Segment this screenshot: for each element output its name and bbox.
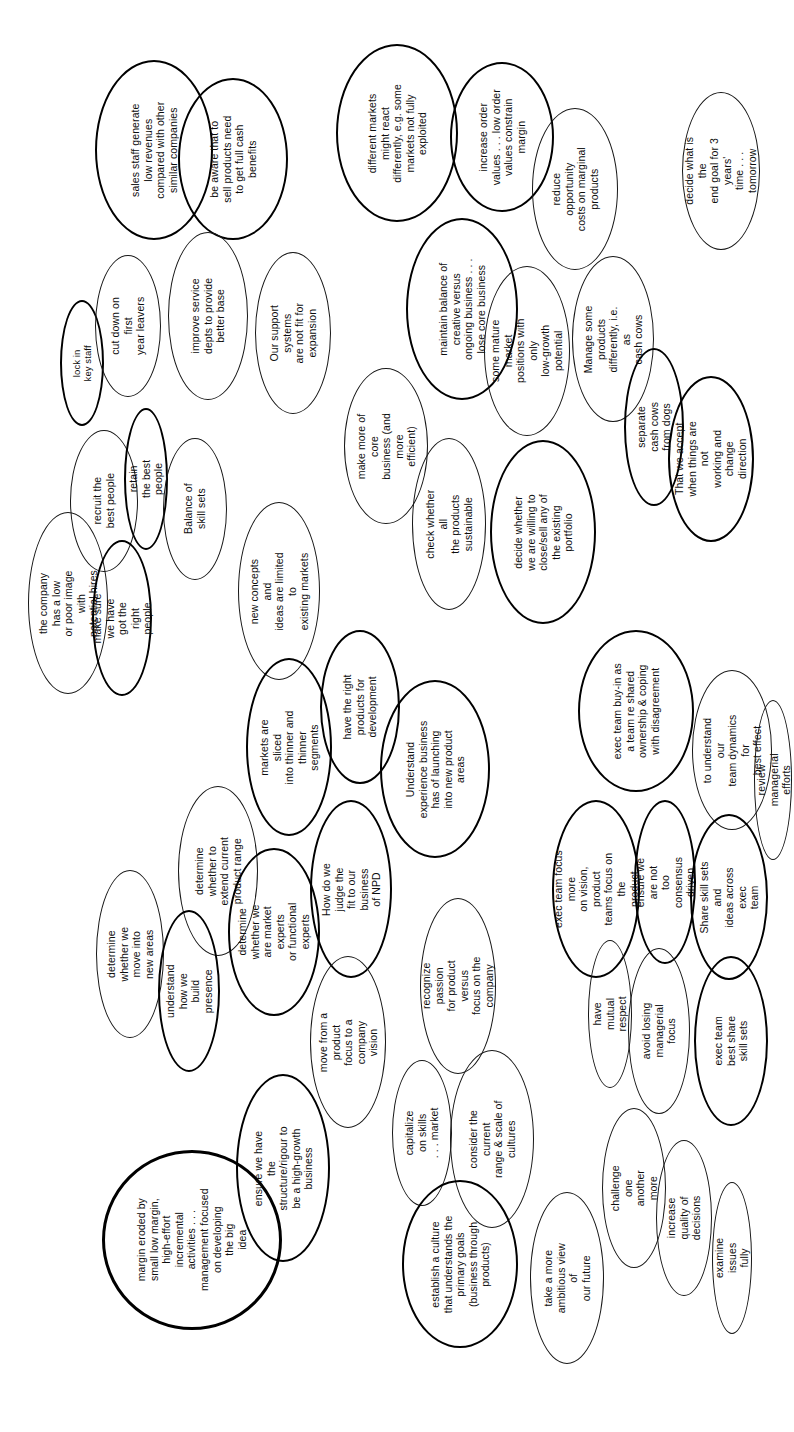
idea-oval-label: decide whether we are willing to close/s… xyxy=(512,481,575,583)
idea-oval: markets are sliced into thinner and thin… xyxy=(246,658,332,836)
idea-oval: some mature market positions with only l… xyxy=(484,266,570,436)
idea-oval-label: cut down on first year leavers xyxy=(109,294,147,358)
idea-oval-label: capitalize on skills . . . market xyxy=(403,1104,441,1162)
idea-oval: cut down on first year leavers xyxy=(95,255,161,397)
idea-oval: make sure we have got the right people xyxy=(92,540,152,696)
idea-oval-label: understand how we build presence xyxy=(164,962,214,1020)
idea-oval: ensure we are not too consensus driven xyxy=(634,800,696,964)
idea-oval: That we accept when things are not worki… xyxy=(668,376,754,542)
idea-oval-label: ensure we have the structure/rigour to b… xyxy=(252,1123,315,1213)
idea-oval-label: maintain balance of creative versus ongo… xyxy=(437,255,487,363)
idea-oval-label: recognize passion for product versus foc… xyxy=(420,949,496,1023)
idea-oval-label: markets are sliced into thinner and thin… xyxy=(258,706,321,788)
idea-oval-label: some mature market positions with only l… xyxy=(489,309,565,393)
idea-oval-label: avoid losing managerial focus xyxy=(640,1001,678,1061)
idea-oval: retain the best people xyxy=(124,408,168,550)
idea-oval: exec team focus more on vision, product … xyxy=(552,800,640,978)
diagram-canvas: sales staff generate low revenues compar… xyxy=(0,0,794,1432)
idea-oval-label: be aware that to sell products need to g… xyxy=(208,106,258,212)
idea-oval-label: improve service depts to provide better … xyxy=(189,277,227,355)
idea-oval: Understand experience business has of la… xyxy=(380,680,490,858)
idea-oval: exec team buy-in as a team re shared own… xyxy=(578,630,694,792)
idea-oval: establish a culture that understands the… xyxy=(402,1180,518,1348)
idea-oval: reduce opportunity costs on marginal pro… xyxy=(532,108,618,270)
idea-oval-label: margin eroded by small low margin, high-… xyxy=(135,1158,248,1322)
idea-oval-label: decide what is the end goal for 3 years'… xyxy=(683,133,759,209)
idea-oval: decide whether we are willing to close/s… xyxy=(490,440,596,624)
idea-oval-label: exec team focus more on vision, product … xyxy=(552,847,640,931)
idea-oval-label: have mutual respect xyxy=(591,993,629,1035)
idea-oval: Our support systems are not fit for expa… xyxy=(255,252,331,414)
idea-oval: be aware that to sell products need to g… xyxy=(178,78,288,240)
idea-oval: understand how we build presence xyxy=(158,910,220,1072)
idea-oval: have mutual respect xyxy=(588,940,632,1088)
idea-oval-label: Understand experience business has of la… xyxy=(404,716,467,822)
idea-oval-label: challenge one another more xyxy=(609,1157,659,1219)
idea-oval-label: examine issues fully xyxy=(713,1238,751,1278)
idea-oval-label: establish a culture that understands the… xyxy=(429,1208,492,1320)
idea-oval: exec team best share skill sets xyxy=(694,956,768,1126)
idea-oval: improve service depts to provide better … xyxy=(168,232,248,400)
idea-oval: ensure we have the structure/rigour to b… xyxy=(236,1074,330,1262)
idea-oval: challenge one another more xyxy=(602,1108,666,1268)
idea-oval-label: Our support systems are not fit for expa… xyxy=(268,296,318,370)
idea-oval: determine whether we are market experts … xyxy=(228,848,320,1016)
idea-oval-label: reduce opportunity costs on marginal pro… xyxy=(550,147,600,231)
idea-oval-label: exec team buy-in as a team re shared own… xyxy=(611,655,661,767)
idea-oval: Balance of skill sets xyxy=(163,438,227,580)
idea-oval-label: ensure we are not too consensus driven xyxy=(634,853,697,911)
idea-oval: recognize passion for product versus foc… xyxy=(420,898,496,1074)
idea-oval: different markets might react differentl… xyxy=(336,44,458,222)
idea-oval-label: make sure we have got the right people xyxy=(91,590,154,646)
idea-oval-label: recruit the best people xyxy=(91,468,116,534)
idea-oval: take a more ambitious view of our future xyxy=(530,1192,604,1364)
idea-oval: avoid losing managerial focus xyxy=(628,948,690,1114)
idea-oval-label: increase order values . . . low order va… xyxy=(477,87,527,187)
idea-oval-label: increase quality of decisions xyxy=(665,1191,703,1245)
idea-oval-label: Balance of skill sets xyxy=(182,478,207,540)
idea-oval: new concepts and ideas are limited to ex… xyxy=(238,502,320,680)
idea-oval-label: That we accept when things are not worki… xyxy=(673,418,749,500)
idea-oval-label: determine whether we move into new areas xyxy=(105,921,155,987)
idea-oval: How do we judge the fit to our business … xyxy=(310,800,392,978)
idea-oval-label: new concepts and ideas are limited to ex… xyxy=(248,551,311,631)
idea-oval-label: separate cash cows from dogs xyxy=(635,399,673,455)
idea-oval-label: move from a product focus to a company v… xyxy=(317,1005,380,1079)
idea-oval-label: Share skill sets and ideas across exec t… xyxy=(698,860,761,934)
idea-oval-label: exec team best share skill sets xyxy=(712,1006,750,1076)
idea-oval: determine whether we move into new areas xyxy=(96,870,164,1038)
idea-oval-label: retain the best people xyxy=(127,459,165,499)
idea-oval: check whether all the products sustainab… xyxy=(412,438,486,610)
idea-oval-label: make more of core business (and more eff… xyxy=(355,405,418,487)
idea-oval: increase quality of decisions xyxy=(656,1140,712,1296)
idea-oval-label: different markets might react differentl… xyxy=(366,74,429,192)
idea-oval: examine issues fully xyxy=(712,1182,752,1334)
idea-oval-label: sales staff generate low revenues compar… xyxy=(129,93,179,207)
idea-oval-label: take a more ambitious view of our future xyxy=(542,1242,592,1314)
idea-oval-label: check whether all the products sustainab… xyxy=(424,488,474,560)
idea-oval-label: consider the current range & scale of cu… xyxy=(467,1098,517,1180)
idea-oval: move from a product focus to a company v… xyxy=(310,956,386,1128)
idea-oval-label: How do we judge the fit to our business … xyxy=(320,850,383,928)
idea-oval-label: have the right products for development xyxy=(341,669,379,745)
idea-oval: decide what is the end goal for 3 years'… xyxy=(682,92,760,250)
idea-oval-label: determine whether we are market experts … xyxy=(236,888,312,976)
idea-oval: review managerial efforts xyxy=(754,700,792,860)
idea-oval-label: review managerial efforts xyxy=(754,754,792,807)
idea-oval-label: lock in key staff xyxy=(71,343,94,383)
